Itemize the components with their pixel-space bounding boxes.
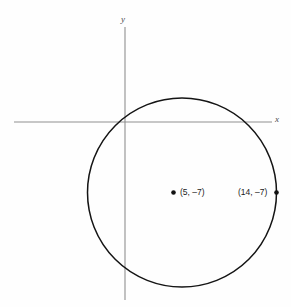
center-point-dot xyxy=(171,190,176,195)
y-axis-label: y xyxy=(121,15,125,24)
radius-point-dot xyxy=(274,190,279,195)
circle-graph-figure: y x (5, –7) (14, –7) xyxy=(0,0,291,307)
x-axis-label: x xyxy=(275,115,279,124)
center-point-label: (5, –7) xyxy=(180,188,205,197)
coordinate-plane-svg xyxy=(0,0,291,307)
radius-point-label: (14, –7) xyxy=(238,188,267,197)
